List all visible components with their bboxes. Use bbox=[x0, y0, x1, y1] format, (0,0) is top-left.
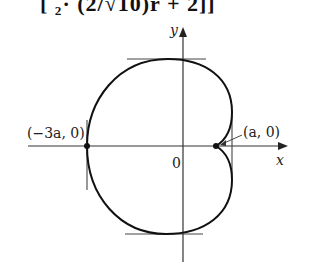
point-left bbox=[84, 143, 90, 149]
y-axis bbox=[179, 27, 187, 262]
y-axis-label: y bbox=[170, 23, 178, 37]
point-cusp bbox=[213, 143, 219, 149]
origin-label: 0 bbox=[172, 156, 181, 170]
x-axis-label: x bbox=[276, 153, 284, 167]
point-left-label: (−3a, 0) bbox=[27, 126, 85, 140]
x-axis bbox=[28, 142, 288, 150]
point-cusp-label: (a, 0) bbox=[243, 125, 280, 139]
